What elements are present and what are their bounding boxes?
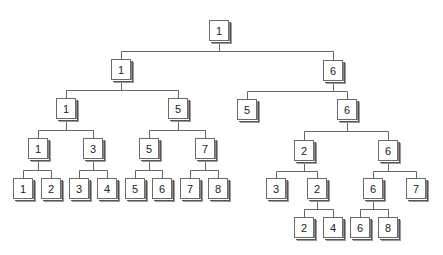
node-label: 1 [118, 64, 124, 76]
node-label: 1 [35, 143, 41, 155]
tree-node: 6 [350, 217, 370, 238]
node-label: 7 [187, 183, 193, 195]
node-label: 3 [76, 183, 82, 195]
node-label: 1 [63, 103, 69, 115]
node-label: 2 [48, 183, 54, 195]
node-label: 1 [216, 25, 222, 37]
node-label: 3 [273, 183, 279, 195]
node-label: 6 [357, 222, 363, 234]
node-label: 4 [104, 183, 110, 195]
tree-diagram: 11615561357261234567832672468 [0, 0, 443, 255]
node-label: 6 [370, 183, 376, 195]
tree-node: 8 [208, 178, 228, 199]
tree-node: 6 [152, 178, 172, 199]
tree-node: 5 [125, 178, 145, 199]
node-label: 8 [215, 183, 221, 195]
tree-node: 2 [41, 178, 61, 199]
node-label: 2 [314, 183, 320, 195]
tree-node: 2 [307, 178, 327, 199]
node-label: 6 [344, 104, 350, 116]
tree-node: 1 [56, 98, 76, 119]
node-label: 6 [159, 183, 165, 195]
tree-node: 1 [209, 20, 229, 41]
tree-node: 7 [195, 138, 215, 159]
tree-node: 5 [139, 138, 159, 159]
tree-node: 6 [363, 178, 383, 199]
node-label: 5 [244, 104, 250, 116]
node-label: 7 [413, 183, 419, 195]
tree-node: 3 [266, 178, 286, 199]
node-label: 5 [146, 143, 152, 155]
node-label: 3 [90, 143, 96, 155]
node-label: 4 [330, 222, 336, 234]
tree-node: 5 [168, 98, 188, 119]
tree-node: 2 [294, 140, 314, 161]
tree-node: 1 [13, 178, 33, 199]
tree-node: 4 [323, 217, 343, 238]
node-label: 1 [20, 183, 26, 195]
tree-node: 3 [69, 178, 89, 199]
tree-node: 7 [180, 178, 200, 199]
tree-node: 5 [237, 99, 257, 120]
node-label: 5 [175, 103, 181, 115]
tree-node: 3 [83, 138, 103, 159]
tree-node: 1 [111, 59, 131, 80]
tree-node: 6 [378, 140, 398, 161]
tree-node: 1 [28, 138, 48, 159]
node-label: 6 [385, 145, 391, 157]
node-label: 7 [202, 143, 208, 155]
tree-node: 2 [294, 217, 314, 238]
node-label: 5 [132, 183, 138, 195]
tree-node: 8 [378, 217, 398, 238]
node-label: 2 [301, 222, 307, 234]
node-label: 2 [301, 145, 307, 157]
tree-node: 4 [97, 178, 117, 199]
node-label: 8 [385, 222, 391, 234]
tree-node: 6 [323, 60, 343, 81]
tree-node: 6 [337, 99, 357, 120]
node-label: 6 [330, 65, 336, 77]
tree-node: 7 [406, 178, 426, 199]
